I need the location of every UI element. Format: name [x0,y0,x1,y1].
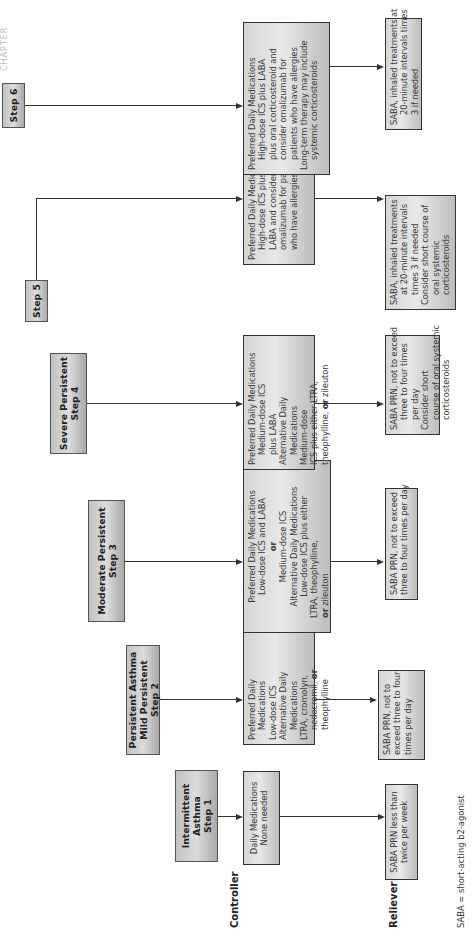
arrow-down-icon [377,196,384,202]
step-5-reliever-box: SABA, inhaled treatments at 20-minute in… [385,195,456,310]
connector-line [315,699,371,700]
box-line: SABA, inhaled treatments at [389,23,399,125]
box-line: at 20-minute intervals [399,200,409,305]
step-2-header-line: Step 2 [149,652,160,749]
step-4-header: Severe Persistent Step 4 [50,353,87,454]
arrow-down-icon [236,401,243,407]
box-line: SABA PRN, not to exceed [389,340,399,430]
box-line: plus LABA [268,340,278,465]
box-line: zileuton [320,573,330,605]
step-1-header: Intermittent Asthma Step 1 [175,770,218,862]
step-4-reliever-box: SABA PRN, not to exceed three to four ti… [385,335,440,435]
step-2-header-line: Persistent Asthma [127,652,138,749]
box-line: SABA PRN less than [389,789,399,875]
connector-line [125,561,237,562]
box-line: SABA, inhaled treatments [389,200,399,305]
step-3-header: Moderate Persistent Step 3 [88,500,125,622]
box-line: patients who have allergies [289,27,299,170]
box-line: times per day [403,675,413,755]
box-line: Preferred Daily Medications [247,340,257,465]
step-6-reliever-box: SABA, inhaled treatments at 20-minute in… [385,18,422,130]
arrow-down-icon [236,814,243,820]
box-line: twice per week [399,789,409,875]
step-2-header-line: Mild Persistent [138,652,149,749]
step-2-controller-box: Preferred Daily Medications Low-dose ICS… [243,620,315,745]
box-line: SABA PRN, not to [382,675,392,755]
step-3-reliever-box: SABA PRN, not to exceed three to four ti… [385,488,418,600]
box-line: corticosteroids [441,200,451,305]
box-line: Medications [289,625,299,740]
step-6-header-line: Step 6 [8,89,19,123]
box-line: Low-dose ICS [268,625,278,740]
connector-line [36,198,237,199]
box-line: 20-minute intervals times [399,23,409,125]
connector-line [36,199,37,280]
box-line: LTRA, cromolyn, [299,625,309,740]
connector-line [25,105,237,106]
arrow-down-icon [236,103,243,109]
box-line: consider omalizumab for [278,27,288,170]
box-line: Medications [257,625,267,740]
box-line: Medium-dose ICS [257,340,267,465]
step-1-header-line: Intermittent [180,784,191,849]
box-line: Preferred Daily Medications [247,27,257,170]
box-line: Low-dose ICS plus either [299,465,309,628]
row-label-reliever: Reliever [388,882,399,928]
connector-line [315,198,378,199]
row-label-controller: Controller [229,872,240,928]
connector-line [87,403,237,404]
or-label: or [309,669,319,679]
box-line: Daily Medications [249,776,259,860]
box-line: course of oral systemic [431,340,441,430]
arrow-down-icon [377,559,384,565]
or-label: or [320,399,330,409]
step-6-header: Step 6 [2,83,25,128]
step-1-header-line: Asthma [191,784,202,849]
arrow-down-icon [236,697,243,703]
arrow-down-icon [236,196,243,202]
box-line: Medications [289,340,299,465]
arrow-down-icon [236,559,243,565]
page-header: CHAPTER [0,27,9,71]
step-4-header-line: Step 4 [69,357,80,450]
box-line: Medium-dose ICS [278,465,288,628]
box-line: plus oral corticosteroid and [268,27,278,170]
box-line: Alternative Daily [278,625,288,740]
step-4-header-line: Severe Persistent [58,357,69,450]
step-1-reliever-box: SABA PRN less than twice per week [385,784,418,880]
box-line: theophylline, [320,412,330,465]
connector-line [315,403,378,404]
arrow-down-icon [377,401,384,407]
box-line: None needed [259,776,269,860]
box-line: Consider short [420,340,430,430]
box-line: Medium-dose [299,340,309,465]
connector-line [160,699,237,700]
box-line: Low-dose ICS and LABA [257,465,267,628]
box-line: Alternative Daily [278,340,288,465]
box-line: Preferred Daily Medications [247,465,257,628]
box-line: Preferred Daily [247,625,257,740]
arrow-down-icon [370,697,377,703]
box-line: nedocromil, [309,682,319,730]
box-line: oral systemic [431,200,441,305]
connector-line [330,66,378,67]
step-3-header-line: Step 3 [107,507,118,614]
step-1-header-line: Step 1 [202,784,213,849]
step-4-controller-box: Preferred Daily Medications Medium-dose … [243,335,315,470]
box-line: times 3 if needed [410,200,420,305]
or-label: or [268,465,278,628]
box-line: Alternative Daily Medications [289,465,299,628]
step-3-controller-box: Preferred Daily Medications Low-dose ICS… [243,460,331,633]
step-3-header-line: Moderate Persistent [96,507,107,614]
connector-line [218,816,237,817]
box-line: Long-term therapy may include [299,27,309,170]
box-line: three to four times per day [399,493,409,595]
box-line: zileuton [320,364,330,396]
box-line: LTRA, theophylline, [309,465,319,628]
step-5-header: Step 5 [25,280,48,322]
connector-line [331,561,378,562]
box-line: 3 if needed [410,23,420,125]
box-line: corticosteroids [441,340,451,430]
step-2-reliever-box: SABA PRN, not to exceed three to four ti… [378,670,425,760]
box-line: systemic corticosteroids [309,27,319,170]
